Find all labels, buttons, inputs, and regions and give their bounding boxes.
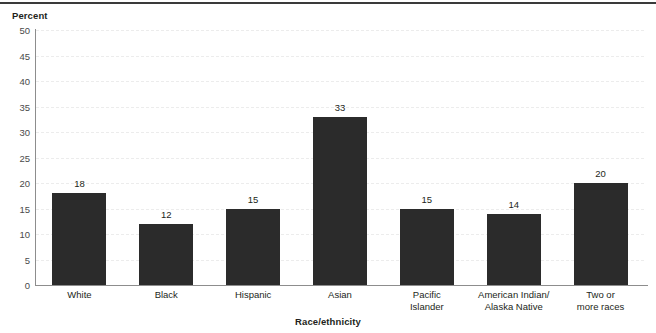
- y-axis-tick-label: 20: [2, 178, 30, 189]
- bar: [52, 193, 106, 285]
- y-axis-tick-label: 5: [2, 254, 30, 265]
- bar-value-label: 15: [248, 194, 259, 205]
- x-axis-tick-label: Asian: [297, 289, 384, 301]
- bar-series: 18121533151420: [36, 30, 644, 285]
- y-axis-tick-label: 35: [2, 101, 30, 112]
- x-axis-tick-label-line: Two or: [557, 289, 644, 301]
- x-axis-tick-label: White: [36, 289, 123, 301]
- x-axis-tick-label-line: Hispanic: [210, 289, 297, 301]
- x-axis-tick-label: Two ormore races: [557, 289, 644, 312]
- x-axis-tick-label: Hispanic: [210, 289, 297, 301]
- x-axis-title: Race/ethnicity: [0, 316, 656, 327]
- y-axis-tick-label: 45: [2, 50, 30, 61]
- y-axis-tick-label: 40: [2, 76, 30, 87]
- bar-group: 33: [297, 30, 384, 285]
- y-axis-tick-label: 50: [2, 25, 30, 36]
- bar: [139, 224, 193, 285]
- bar: [487, 214, 541, 285]
- bar-value-label: 18: [74, 178, 85, 189]
- bar-group: 15: [383, 30, 470, 285]
- bar-group: 15: [210, 30, 297, 285]
- x-axis-tick-label-line: Pacific: [383, 289, 470, 301]
- bar-value-label: 12: [161, 209, 172, 220]
- y-axis-tick-label: 30: [2, 127, 30, 138]
- bar-group: 18: [36, 30, 123, 285]
- x-axis-tick-label: American Indian/Alaska Native: [470, 289, 557, 312]
- x-axis-line: [35, 285, 648, 286]
- x-axis-tick-label-line: American Indian/: [470, 289, 557, 301]
- bar-group: 12: [123, 30, 210, 285]
- bar-value-label: 15: [422, 194, 433, 205]
- x-axis-tick-label-line: Black: [123, 289, 210, 301]
- bar-value-label: 14: [508, 199, 519, 210]
- x-axis-tick-label: PacificIslander: [383, 289, 470, 312]
- x-axis-tick-label-line: White: [36, 289, 123, 301]
- y-axis-tick-labels: 50454035302520151050: [0, 0, 30, 333]
- y-axis-tick-label: 15: [2, 203, 30, 214]
- header-divider: [0, 2, 656, 4]
- y-axis-tick-label: 0: [2, 280, 30, 291]
- x-axis-tick-label-line: Asian: [297, 289, 384, 301]
- bar: [226, 209, 280, 286]
- y-axis-tick-label: 25: [2, 152, 30, 163]
- bar-group: 14: [470, 30, 557, 285]
- bar-value-label: 33: [335, 102, 346, 113]
- x-axis-tick-label-line: more races: [557, 301, 644, 313]
- x-axis-tick-label: Black: [123, 289, 210, 301]
- bar-group: 20: [557, 30, 644, 285]
- bar: [313, 117, 367, 285]
- bar: [400, 209, 454, 286]
- x-axis-tick-label-line: Islander: [383, 301, 470, 313]
- x-axis-tick-label-line: Alaska Native: [470, 301, 557, 313]
- y-axis-tick-label: 10: [2, 229, 30, 240]
- bar-value-label: 20: [595, 168, 606, 179]
- bar: [574, 183, 628, 285]
